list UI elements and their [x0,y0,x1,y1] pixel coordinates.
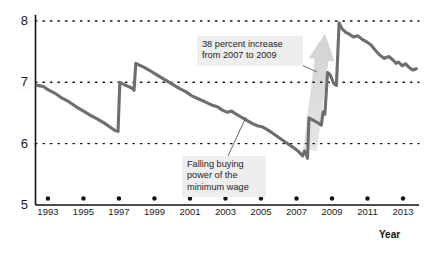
annotation-leader-lines [228,60,317,156]
x-axis-tick-label: 1995 [66,207,100,217]
x-axis-tick-label: 1997 [102,207,136,217]
x-axis-title: Year [379,229,400,240]
falling-power-callout: Falling buying power of the minimum wage [182,156,266,197]
x-axis-tick-label: 1999 [137,207,171,217]
y-axis-tick-label: 7 [10,75,28,88]
increase-callout: 38 percent increase from 2007 to 2009 [197,36,303,66]
x-axis-tick-label: 2005 [244,207,278,217]
x-axis-tick-label: 2011 [351,207,385,217]
minimum-wage-chart: 8765 19931995199719992001200320052007200… [0,0,425,253]
y-axis-tick-label: 6 [10,137,28,150]
y-axis-tick-label: 8 [10,14,28,27]
x-axis-tick-label: 2001 [173,207,207,217]
x-axis-tick-label: 2013 [386,207,420,217]
y-axis-tick-label: 5 [10,198,28,211]
x-axis-tick-label: 2007 [279,207,313,217]
x-axis-tick-label: 2009 [315,207,349,217]
x-axis-tick-label: 2003 [208,207,242,217]
x-axis-tick-label: 1993 [31,207,65,217]
